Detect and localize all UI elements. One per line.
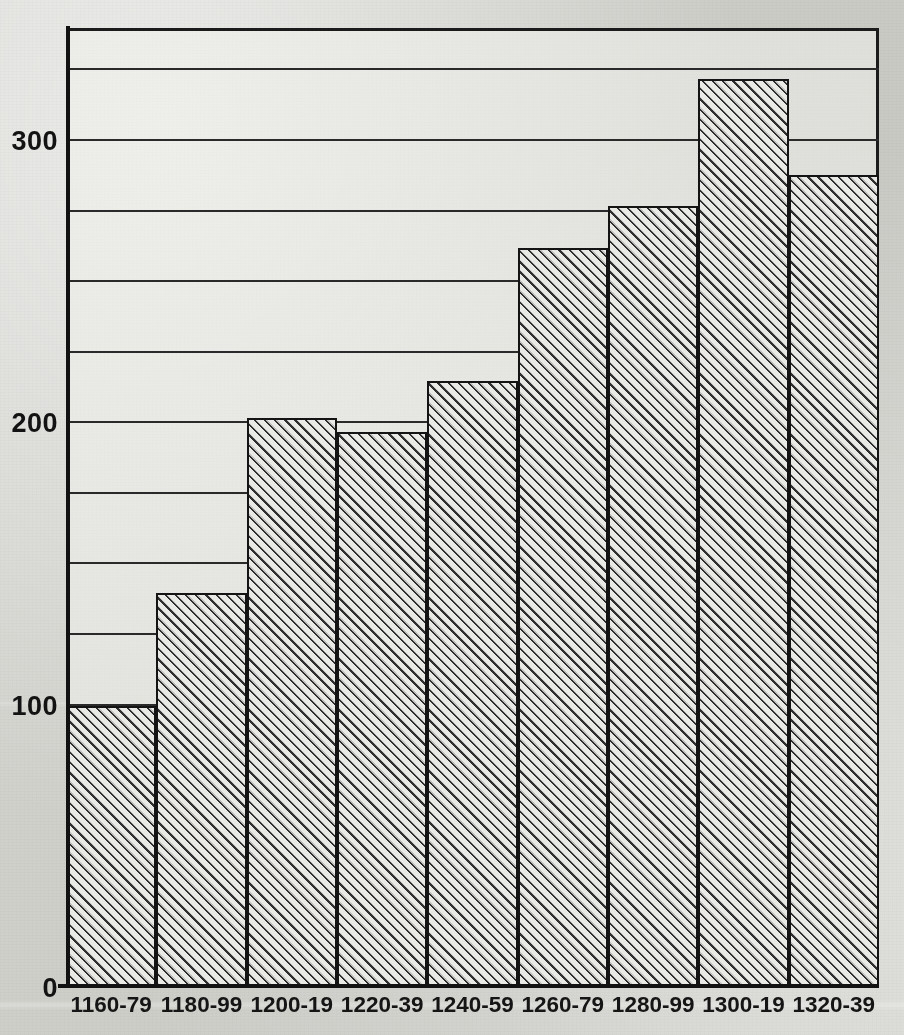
bar xyxy=(698,79,788,988)
plot-area xyxy=(66,28,879,988)
x-axis-tick-label: 1260-79 xyxy=(522,992,605,1018)
y-axis-tick-label: 200 xyxy=(11,408,58,439)
x-axis-tick-label: 1220-39 xyxy=(341,992,424,1018)
bar xyxy=(66,706,156,988)
gridline xyxy=(66,68,879,70)
x-axis-tick-label: 1240-59 xyxy=(431,992,514,1018)
x-axis-tick-label: 1160-79 xyxy=(70,992,151,1018)
bar xyxy=(427,381,517,988)
x-axis-line xyxy=(58,984,879,988)
bar xyxy=(247,418,337,988)
y-axis-tick-label: 100 xyxy=(11,690,58,721)
y-axis-tick-labels: 0100200300 xyxy=(0,0,58,1035)
y-axis-tick-label: 0 xyxy=(42,973,58,1004)
bar xyxy=(608,206,698,988)
bar xyxy=(156,593,246,988)
y-axis-line xyxy=(66,26,70,988)
bar xyxy=(518,248,608,988)
chart-page: 0100200300 1160-791180-991200-191220-391… xyxy=(0,0,904,1035)
x-axis-tick-label: 1320-39 xyxy=(793,992,876,1018)
x-axis-tick-label: 1280-99 xyxy=(612,992,695,1018)
bar xyxy=(789,175,879,988)
y-axis-tick-label: 300 xyxy=(11,125,58,156)
x-axis-tick-label: 1200-19 xyxy=(251,992,334,1018)
x-axis-tick-labels: 1160-791180-991200-191220-391240-591260-… xyxy=(66,992,879,1032)
x-axis-tick-label: 1180-99 xyxy=(161,992,242,1018)
bar xyxy=(337,432,427,988)
x-axis-tick-label: 1300-19 xyxy=(702,992,785,1018)
